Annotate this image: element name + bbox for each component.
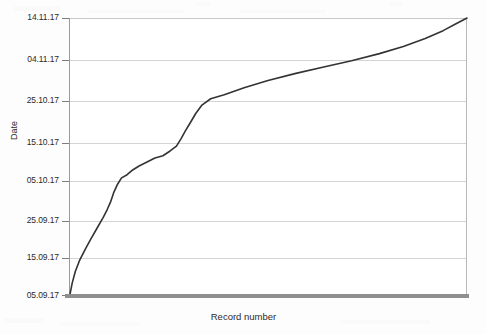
y-tick-label: 15.09.17 <box>27 253 59 262</box>
x-axis-title: Record number <box>0 311 487 322</box>
scan-artifact <box>14 6 60 11</box>
y-tick-label: 04.11.17 <box>27 55 59 64</box>
y-tick-label: 25.09.17 <box>27 216 59 225</box>
chart-screenshot: 14.11.17 04.11.17 25.10.17 15.10.17 05.1… <box>0 0 487 334</box>
plot-area <box>69 18 467 295</box>
y-tick-mark <box>62 18 69 19</box>
y-axis-title: Date <box>9 121 19 140</box>
y-tick-mark <box>62 221 69 222</box>
scan-artifact <box>240 10 326 13</box>
y-tick-label: 14.11.17 <box>27 13 59 22</box>
data-series-line <box>69 18 467 295</box>
scan-artifact <box>60 322 140 326</box>
y-tick-mark <box>62 60 69 61</box>
y-tick-label: 05.09.17 <box>27 291 59 300</box>
y-tick-mark <box>62 181 69 182</box>
y-tick-label: 05.10.17 <box>27 176 59 185</box>
scan-artifact <box>88 10 184 13</box>
y-tick-label: 15.10.17 <box>27 138 59 147</box>
scan-artifact <box>390 2 402 6</box>
y-tick-mark <box>62 258 69 259</box>
y-tick-mark <box>62 101 69 102</box>
scan-artifact <box>196 2 210 6</box>
y-tick-label: 25.10.17 <box>27 96 59 105</box>
y-tick-mark <box>62 143 69 144</box>
